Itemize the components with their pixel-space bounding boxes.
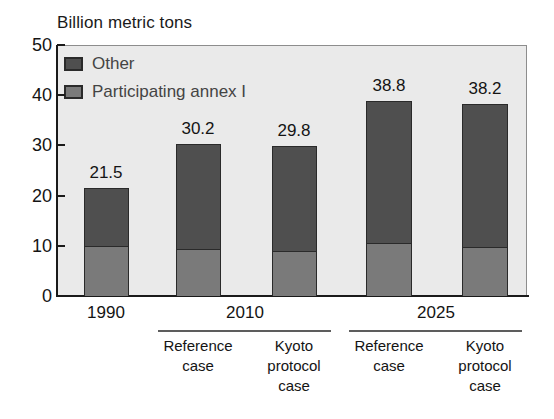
y-axis-tick-mark <box>57 295 65 297</box>
bar-bar-2025-kyoto <box>462 104 508 296</box>
bar-value-label: 29.8 <box>277 121 310 141</box>
bar-segment-participating-annex-i <box>272 251 317 296</box>
legend-swatch-annex-icon <box>64 85 83 99</box>
bar-value-label: 38.2 <box>468 79 501 99</box>
case-2025-reference-label: Referencecase <box>354 336 423 376</box>
case-label-line: case <box>163 356 232 376</box>
y-axis-tick-mark <box>57 144 65 146</box>
bar-segment-other <box>366 101 412 243</box>
y-axis-tick-label: 0 <box>14 286 52 307</box>
y-axis-tick-label: 40 <box>14 85 52 106</box>
chart-title: Billion metric tons <box>57 13 192 33</box>
y-axis-line <box>56 45 58 297</box>
bar-segment-other <box>176 144 221 249</box>
case-label-line: case <box>354 356 423 376</box>
case-label-line: case <box>267 376 320 396</box>
y-axis-tick-mark <box>57 44 65 46</box>
bar-segment-participating-annex-i <box>462 247 508 296</box>
y-axis-tick-label: 20 <box>14 185 52 206</box>
case-2025-kyoto-label: Kyotoprotocolcase <box>458 336 511 396</box>
legend-label-annex: Participating annex I <box>92 82 246 102</box>
legend-swatch-other-icon <box>64 57 83 71</box>
case-2010-kyoto-label: Kyotoprotocolcase <box>267 336 320 396</box>
group-bracket-rule <box>158 330 331 332</box>
bar-value-label: 21.5 <box>89 163 122 183</box>
legend-item-annex: Participating annex I <box>64 78 246 106</box>
bar-value-label: 38.8 <box>372 76 405 96</box>
case-label-line: Kyoto <box>267 336 320 356</box>
case-label-line: Reference <box>163 336 232 356</box>
bar-segment-participating-annex-i <box>84 246 129 296</box>
bar-segment-other <box>272 146 317 250</box>
case-2010-reference-label: Referencecase <box>163 336 232 376</box>
y-axis-tick-mark <box>57 94 65 96</box>
x-axis-year-label-1990: 1990 <box>87 303 125 323</box>
x-axis-year-label-2025: 2025 <box>417 303 455 323</box>
chart-figure: Billion metric tons 50403020100 Other Pa… <box>0 0 554 419</box>
group-bracket-rule <box>349 330 522 332</box>
case-label-line: case <box>458 376 511 396</box>
y-axis: 50403020100 <box>0 0 52 419</box>
x-axis-year-label-2010: 2010 <box>226 303 264 323</box>
bar-bar-2010-kyoto <box>272 146 317 296</box>
case-label-line: Kyoto <box>458 336 511 356</box>
chart-legend: Other Participating annex I <box>64 50 246 106</box>
case-label-line: protocol <box>267 356 320 376</box>
y-axis-tick-label: 30 <box>14 135 52 156</box>
bar-segment-participating-annex-i <box>366 243 412 296</box>
bar-bar-1990 <box>84 188 129 296</box>
legend-label-other: Other <box>92 54 135 74</box>
legend-item-other: Other <box>64 50 246 78</box>
y-axis-tick-label: 10 <box>14 235 52 256</box>
case-label-line: protocol <box>458 356 511 376</box>
bar-segment-other <box>462 104 508 247</box>
y-axis-tick-mark <box>57 195 65 197</box>
bar-segment-other <box>84 188 129 246</box>
case-label-line: Reference <box>354 336 423 356</box>
y-axis-tick-mark <box>57 245 65 247</box>
bar-segment-participating-annex-i <box>176 249 221 296</box>
bar-bar-2010-reference <box>176 144 221 296</box>
bar-bar-2025-reference <box>366 101 412 296</box>
y-axis-tick-label: 50 <box>14 35 52 56</box>
bar-value-label: 30.2 <box>181 119 214 139</box>
